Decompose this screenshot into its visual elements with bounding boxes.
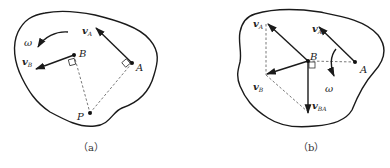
dashed-line-parallelogram [266,75,308,112]
right-angle-marker-B-b [309,62,315,68]
figure-b: vA vA vB vBA ω B A （b） [238,10,384,153]
dashed-line-AP [90,63,132,113]
velocity-vector-vB [36,55,74,69]
right-angle-marker-B [68,58,75,65]
omega-label-b: ω [325,83,333,94]
omega-rotation-arrow-a [38,32,68,47]
label-B-b: B [309,51,317,62]
point-A-a [130,61,134,65]
label-A-a: A [135,62,143,73]
vA-label: vA [82,25,93,37]
point-A-b [353,60,357,64]
velocity-vector-vA-at-A [319,27,355,62]
point-B-a [72,53,76,57]
label-A-b: A [359,64,367,75]
caption-b: （b） [298,142,324,153]
label-B-a: B [78,48,86,59]
figure-a: ω vA vB B A P （a） [15,12,158,153]
vA-right-label: vA [312,23,323,35]
omega-rotation-arrow-b [331,49,336,76]
vA-left-label: vA [253,18,264,30]
vB-label-b: vB [253,81,264,93]
diagram-canvas: ω vA vB B A P （a） [0,0,390,168]
label-P: P [76,111,84,122]
dashed-line-BP [74,55,90,113]
velocity-vector-vA [96,28,132,63]
vB-label: vB [22,56,33,68]
omega-label-a: ω [24,37,32,48]
velocity-vector-vA-at-B [268,24,308,61]
vBA-label: vBA [312,100,327,112]
point-P [88,111,92,115]
caption-a: （a） [78,142,104,153]
velocity-vector-vB-b [267,61,308,74]
